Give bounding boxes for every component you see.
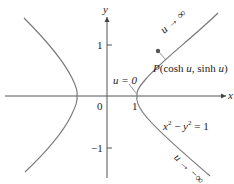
point-p-leader — [159, 52, 166, 60]
hyperbola-plot — [0, 0, 234, 184]
equation-label: x2 − y2 = 1 — [163, 120, 209, 132]
y-tick-label-1: 1 — [97, 40, 103, 51]
y-axis-label: y — [103, 4, 108, 15]
hyperbola-right-branch — [137, 13, 218, 176]
u-zero-label: u = 0 — [113, 75, 137, 86]
hyperbola-figure: y x 0 1 1 −1 u = 0 P(cosh u, sinh u) u →… — [0, 0, 234, 184]
y-tick-label-neg1: −1 — [91, 143, 103, 154]
origin-label: 0 — [97, 101, 103, 112]
x-axis-label: x — [228, 90, 233, 101]
x-tick-label-1: 1 — [132, 101, 138, 112]
point-p-label: P(cosh u, sinh u) — [153, 63, 228, 74]
hyperbola-left-branch — [24, 18, 77, 172]
